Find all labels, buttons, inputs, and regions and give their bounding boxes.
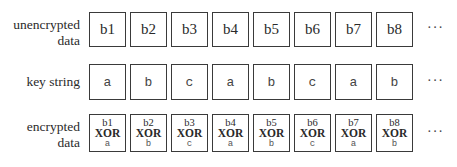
key-char-box: b bbox=[253, 64, 290, 100]
data-byte-box: b5 bbox=[253, 12, 290, 47]
encrypted-byte-box: b5 XOR b bbox=[253, 114, 290, 152]
key-char-box: b bbox=[376, 64, 413, 100]
label-line: unencrypted bbox=[13, 18, 80, 32]
byte-text: b7 bbox=[348, 117, 359, 128]
label-line: data bbox=[13, 34, 80, 48]
byte-text: b8 bbox=[389, 117, 400, 128]
key-string-row: key string a b c a b c a b ··· bbox=[0, 55, 457, 110]
xor-operator: XOR bbox=[136, 128, 162, 139]
byte-text: b1 bbox=[102, 117, 113, 128]
key-char-box: c bbox=[171, 64, 208, 100]
key-text: b bbox=[392, 139, 397, 150]
key-text: b bbox=[269, 139, 274, 150]
key-text: a bbox=[228, 139, 233, 150]
xor-operator: XOR bbox=[218, 128, 244, 139]
label-line: encrypted bbox=[27, 120, 80, 134]
key-text: a bbox=[351, 139, 356, 150]
byte-text: b3 bbox=[184, 117, 195, 128]
byte-text: b4 bbox=[225, 117, 236, 128]
encrypted-byte-box: b7 XOR a bbox=[335, 114, 372, 152]
encrypted-byte-box: b4 XOR a bbox=[212, 114, 249, 152]
data-byte-box: b4 bbox=[212, 12, 249, 47]
xor-operator: XOR bbox=[177, 128, 203, 139]
xor-operator: XOR bbox=[95, 128, 121, 139]
byte-text: b6 bbox=[307, 117, 318, 128]
data-byte-box: b1 bbox=[89, 12, 126, 47]
ellipsis: ··· bbox=[427, 20, 444, 36]
data-byte-box: b2 bbox=[130, 12, 167, 47]
byte-text: b5 bbox=[266, 117, 277, 128]
encrypted-byte-box: b8 XOR b bbox=[376, 114, 413, 152]
unencrypted-data-label: unencrypted data bbox=[13, 18, 80, 48]
xor-operator: XOR bbox=[259, 128, 285, 139]
data-byte-box: b3 bbox=[171, 12, 208, 47]
key-string-label: key string bbox=[26, 75, 80, 89]
xor-operator: XOR bbox=[341, 128, 367, 139]
key-char-box: c bbox=[294, 64, 331, 100]
key-char-box: a bbox=[335, 64, 372, 100]
key-text: b bbox=[146, 139, 151, 150]
encrypted-data-row: encrypted data b1 XOR a b2 XOR b b3 XOR … bbox=[0, 110, 457, 167]
key-char-box: a bbox=[89, 64, 126, 100]
encrypted-byte-box: b3 XOR c bbox=[171, 114, 208, 152]
key-char-box: b bbox=[130, 64, 167, 100]
encrypted-byte-box: b2 XOR b bbox=[130, 114, 167, 152]
byte-text: b2 bbox=[143, 117, 154, 128]
xor-operator: XOR bbox=[382, 128, 408, 139]
key-char-box: a bbox=[212, 64, 249, 100]
encrypted-data-label: encrypted data bbox=[27, 120, 80, 150]
xor-operator: XOR bbox=[300, 128, 326, 139]
data-byte-box: b6 bbox=[294, 12, 331, 47]
data-byte-box: b8 bbox=[376, 12, 413, 47]
label-line: data bbox=[27, 136, 80, 150]
ellipsis: ··· bbox=[427, 124, 444, 140]
ellipsis: ··· bbox=[427, 73, 444, 89]
encrypted-byte-box: b1 XOR a bbox=[89, 114, 126, 152]
unencrypted-data-row: unencrypted data b1 b2 b3 b4 b5 b6 b7 b8… bbox=[0, 0, 457, 55]
encrypted-byte-box: b6 XOR c bbox=[294, 114, 331, 152]
data-byte-box: b7 bbox=[335, 12, 372, 47]
key-text: c bbox=[310, 139, 315, 150]
key-text: a bbox=[105, 139, 110, 150]
key-text: c bbox=[187, 139, 192, 150]
